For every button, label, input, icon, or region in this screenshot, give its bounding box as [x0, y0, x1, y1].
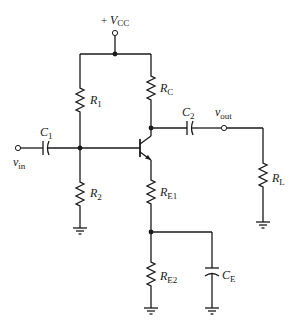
ce-label: CE: [222, 268, 236, 284]
output-network: [149, 121, 263, 135]
rc-label: RC: [159, 81, 173, 97]
c2-label: C2: [182, 105, 195, 121]
vout-label: vout: [215, 105, 232, 121]
re2-label: RE2: [159, 269, 177, 285]
r1-label: R1: [89, 93, 102, 109]
resistor-r1: [76, 54, 84, 148]
rl-label: RL: [271, 171, 285, 187]
r2-label: R2: [89, 186, 102, 202]
resistor-r2: [73, 148, 87, 234]
emitter-node: [149, 230, 212, 268]
re1-label: RE1: [159, 185, 177, 201]
resistor-rl: [256, 128, 270, 228]
circuit-diagram: + VCC R1 C1 vin R2 RC: [0, 0, 298, 335]
npn-transistor: [140, 128, 151, 176]
vin-label: vin: [13, 155, 26, 171]
resistor-re2: [144, 232, 158, 314]
resistor-rc: [147, 54, 155, 128]
resistor-re1: [147, 176, 155, 232]
input-network: [15, 141, 140, 155]
vcc-label: + VCC: [101, 13, 129, 28]
vcc-node: [80, 30, 151, 56]
c1-label: C1: [40, 125, 53, 141]
capacitor-ce: [205, 268, 219, 314]
